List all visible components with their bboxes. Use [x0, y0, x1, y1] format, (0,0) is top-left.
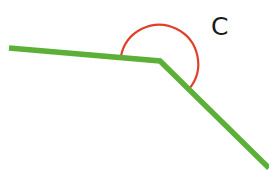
angle-diagram: C: [0, 0, 269, 170]
angle-rays: [9, 48, 269, 168]
angle-label: C: [211, 12, 228, 41]
